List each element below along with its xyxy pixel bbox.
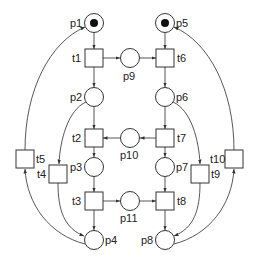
petri-net-diagram: p1 p5 t1 t6 p9 p2 p6 t2 t7 p10 t5 t10 t4… (0, 0, 259, 260)
transition-t1[interactable] (85, 49, 103, 67)
label-t9: t9 (211, 168, 220, 180)
transition-t9[interactable] (191, 165, 209, 183)
label-p5: p5 (176, 17, 188, 29)
label-t10: t10 (210, 153, 225, 165)
place-p8[interactable] (156, 231, 175, 250)
label-p2: p2 (70, 91, 82, 103)
label-p6: p6 (176, 91, 188, 103)
arc-t9-p8 (174, 183, 200, 236)
transition-t10[interactable] (225, 150, 243, 168)
label-p9: p9 (123, 70, 135, 82)
transition-t6[interactable] (156, 49, 174, 67)
place-p2[interactable] (85, 88, 104, 107)
label-t1: t1 (72, 52, 81, 64)
label-t3: t3 (72, 195, 81, 207)
label-t7: t7 (177, 132, 186, 144)
transition-t5[interactable] (16, 150, 34, 168)
label-t8: t8 (177, 195, 186, 207)
place-p6[interactable] (156, 88, 175, 107)
place-p10[interactable] (121, 129, 140, 148)
label-p8: p8 (141, 234, 153, 246)
transition-t3[interactable] (85, 192, 103, 210)
label-t6: t6 (177, 52, 186, 64)
label-p10: p10 (120, 149, 138, 161)
label-t2: t2 (72, 132, 81, 144)
transition-t4[interactable] (49, 165, 67, 183)
transition-t2[interactable] (85, 129, 103, 147)
label-p7: p7 (176, 161, 188, 173)
place-p4[interactable] (85, 231, 104, 250)
arc-t4-p4 (58, 183, 84, 236)
label-t5: t5 (36, 153, 45, 165)
label-p11: p11 (120, 212, 138, 224)
place-p3[interactable] (85, 158, 104, 177)
label-p1: p1 (70, 17, 82, 29)
transition-t7[interactable] (156, 129, 174, 147)
label-p4: p4 (105, 234, 117, 246)
transition-t8[interactable] (156, 192, 174, 210)
token-p5 (161, 19, 169, 27)
label-t4: t4 (37, 168, 46, 180)
token-p1 (90, 19, 98, 27)
place-p11[interactable] (121, 192, 140, 211)
label-p3: p3 (70, 161, 82, 173)
place-p7[interactable] (156, 158, 175, 177)
place-p9[interactable] (121, 49, 140, 68)
